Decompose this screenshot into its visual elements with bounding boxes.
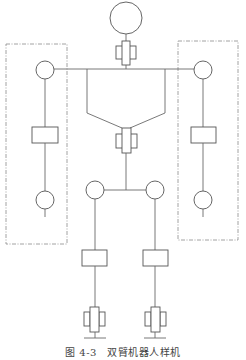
right-shoulder-joint-icon xyxy=(194,61,212,79)
right-foot-slider-icon xyxy=(151,307,160,332)
left-wrist-joint-icon xyxy=(36,191,54,209)
neck-slider-icon xyxy=(122,41,130,65)
robot-kinematic-diagram xyxy=(0,0,246,360)
right-foot-guide-right xyxy=(160,312,166,326)
left-foot-guide-right xyxy=(99,312,105,326)
waist-slider-icon xyxy=(122,128,131,153)
left-foot-slider-icon xyxy=(90,307,99,332)
left-hip-joint-icon xyxy=(86,181,104,199)
right-arm-link-icon xyxy=(191,127,216,143)
right-wrist-joint-icon xyxy=(194,191,212,209)
torso-left-edge xyxy=(87,69,122,128)
right-hip-joint-icon xyxy=(146,181,164,199)
torso-right-edge xyxy=(130,69,165,128)
figure-caption: 图 4-3 双臂机器人样机 xyxy=(0,344,246,359)
left-shoulder-joint-icon xyxy=(36,61,54,79)
left-foot-guide-left xyxy=(84,312,90,326)
head-joint-icon xyxy=(110,2,142,34)
right-leg-link-icon xyxy=(143,250,168,266)
left-leg-link-icon xyxy=(82,250,107,266)
right-foot-guide-left xyxy=(145,312,151,326)
left-arm-link-icon xyxy=(32,127,58,143)
